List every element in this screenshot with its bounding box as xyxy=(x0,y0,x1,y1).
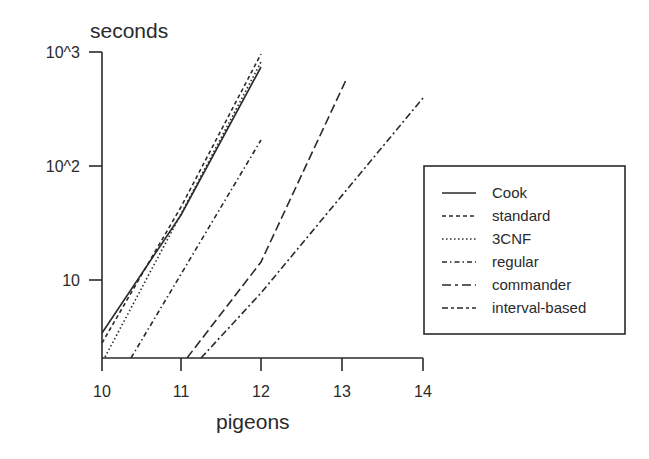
y-tick-label-100: 10^2 xyxy=(46,158,80,175)
y-tick-label-10: 10 xyxy=(62,272,80,289)
x-tick-label-10: 10 xyxy=(93,383,111,400)
legend-label-cook: Cook xyxy=(492,184,528,201)
legend-label-standard: standard xyxy=(492,207,550,224)
y-tick-label-1000: 10^3 xyxy=(46,44,80,61)
series-3cnf xyxy=(105,62,261,357)
legend-label-commander: commander xyxy=(492,276,571,293)
x-tick-label-14: 14 xyxy=(414,383,432,400)
x-tick-label-12: 12 xyxy=(252,383,270,400)
legend-label-3cnf: 3CNF xyxy=(492,230,531,247)
x-tick-label-11: 11 xyxy=(173,383,190,400)
legend-label-regular: regular xyxy=(492,253,539,270)
x-axis xyxy=(102,358,423,371)
series-interval-based xyxy=(201,98,423,358)
y-axis xyxy=(89,52,102,358)
legend: Cook standard 3CNF regular commander int… xyxy=(424,166,625,334)
series-standard xyxy=(102,54,261,343)
series-regular xyxy=(131,140,261,358)
line-chart: seconds 10^3 10^2 10 10 11 12 13 14 pige… xyxy=(0,0,649,459)
x-axis-label: pigeons xyxy=(216,410,290,433)
legend-label-interval-based: interval-based xyxy=(492,299,586,316)
y-axis-label: seconds xyxy=(90,19,168,42)
x-tick-label-13: 13 xyxy=(333,383,351,400)
